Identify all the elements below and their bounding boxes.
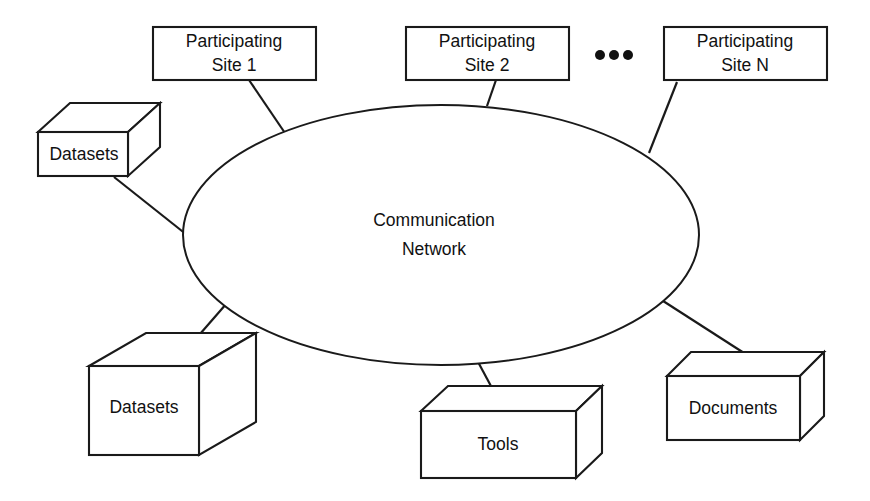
participating-site-n-label-line-2: Site N (721, 55, 769, 75)
participating-site-2-label-line-1: Participating (439, 31, 535, 51)
documents-top-face (667, 352, 824, 376)
tools-node[interactable]: Tools (421, 386, 602, 478)
participating-site-2-node[interactable]: Participating Site 2 (406, 27, 569, 80)
tools-top-face (421, 386, 602, 411)
ellipsis-dot-3 (623, 50, 633, 60)
connector-site-1 (249, 80, 287, 136)
datasets-top-left-node[interactable]: Datasets (38, 103, 160, 176)
ellipsis-dot-2 (609, 50, 619, 60)
ellipsis-dot-1 (595, 50, 605, 60)
connector-site-2 (487, 80, 496, 106)
connector-site-n (649, 82, 677, 153)
datasets-bottom-left-node[interactable]: Datasets (89, 333, 256, 455)
participating-site-n-node[interactable]: Participating Site N (664, 27, 827, 80)
documents-node[interactable]: Documents (667, 352, 824, 440)
documents-label: Documents (689, 398, 778, 418)
participating-site-1-label-line-1: Participating (186, 31, 282, 51)
network-diagram: Communication Network Participating Site… (0, 0, 870, 501)
communication-network-label-line-1: Communication (373, 210, 495, 230)
tools-label: Tools (478, 434, 519, 454)
connector-datasets-top-left (114, 177, 187, 235)
communication-network-node[interactable]: Communication Network (183, 105, 699, 365)
participating-site-1-node[interactable]: Participating Site 1 (153, 27, 316, 80)
participating-site-n-label-line-1: Participating (697, 31, 793, 51)
connector-documents (660, 299, 744, 353)
participating-site-1-label-line-2: Site 1 (212, 55, 257, 75)
communication-network-label-line-2: Network (402, 239, 466, 259)
datasets-bottom-left-label: Datasets (109, 397, 178, 417)
ellipsis-icon (595, 50, 633, 60)
connector-datasets-bottom-left (200, 303, 227, 334)
datasets-top-left-label: Datasets (49, 144, 118, 164)
communication-network-ellipse[interactable] (183, 105, 699, 365)
participating-site-2-label-line-2: Site 2 (465, 55, 510, 75)
